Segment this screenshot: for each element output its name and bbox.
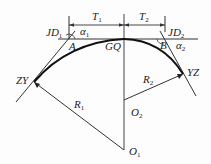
label-t1: T1 xyxy=(92,11,102,24)
label-yz: YZ xyxy=(187,67,199,78)
label-r1: R1 xyxy=(74,99,84,112)
label-zy: ZY xyxy=(16,75,28,86)
label-r2: R2 xyxy=(143,74,153,87)
label-a: A xyxy=(69,41,76,52)
label-jd1: JD1 xyxy=(46,27,62,40)
t1-arrow-right-icon xyxy=(119,23,124,27)
t1-arrow-left-icon xyxy=(69,23,74,27)
curve-diagram-svg xyxy=(0,0,211,164)
label-o2: O2 xyxy=(131,107,142,120)
label-alpha1: α1 xyxy=(80,26,89,39)
radius-line-r2 xyxy=(124,74,183,100)
label-o1: O1 xyxy=(129,146,140,159)
t2-arrow-left-icon xyxy=(124,23,129,27)
r1-arrow-icon xyxy=(34,82,40,88)
label-b: B xyxy=(160,40,167,51)
radius-line-r1 xyxy=(34,82,124,150)
diagram-canvas: T1 T2 JD1 JD2 α1 α2 A B GQ ZY YZ R1 R2 O… xyxy=(0,0,211,164)
label-gq: GQ xyxy=(105,41,121,52)
label-alpha2: α2 xyxy=(176,40,185,53)
t2-arrow-right-icon xyxy=(160,23,165,27)
label-t2: T2 xyxy=(139,11,149,24)
